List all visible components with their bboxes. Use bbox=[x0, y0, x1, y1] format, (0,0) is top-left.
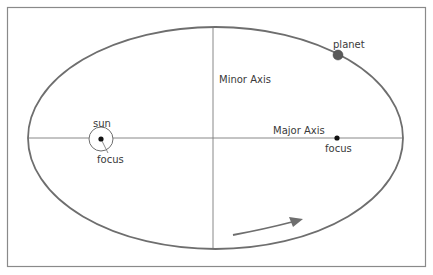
sun-focus-label: focus bbox=[97, 154, 124, 165]
empty-focus-dot bbox=[334, 135, 339, 140]
planet-label: planet bbox=[333, 39, 365, 50]
sun-label: sun bbox=[93, 118, 111, 129]
planet-icon bbox=[333, 50, 343, 60]
minor-axis-label: Minor Axis bbox=[219, 74, 271, 85]
orbit-diagram: sun focus planet Minor Axis Major Axis f… bbox=[0, 0, 433, 275]
empty-focus-label: focus bbox=[325, 143, 352, 154]
sun-focus-dot bbox=[98, 136, 103, 141]
major-axis-label: Major Axis bbox=[273, 125, 325, 136]
